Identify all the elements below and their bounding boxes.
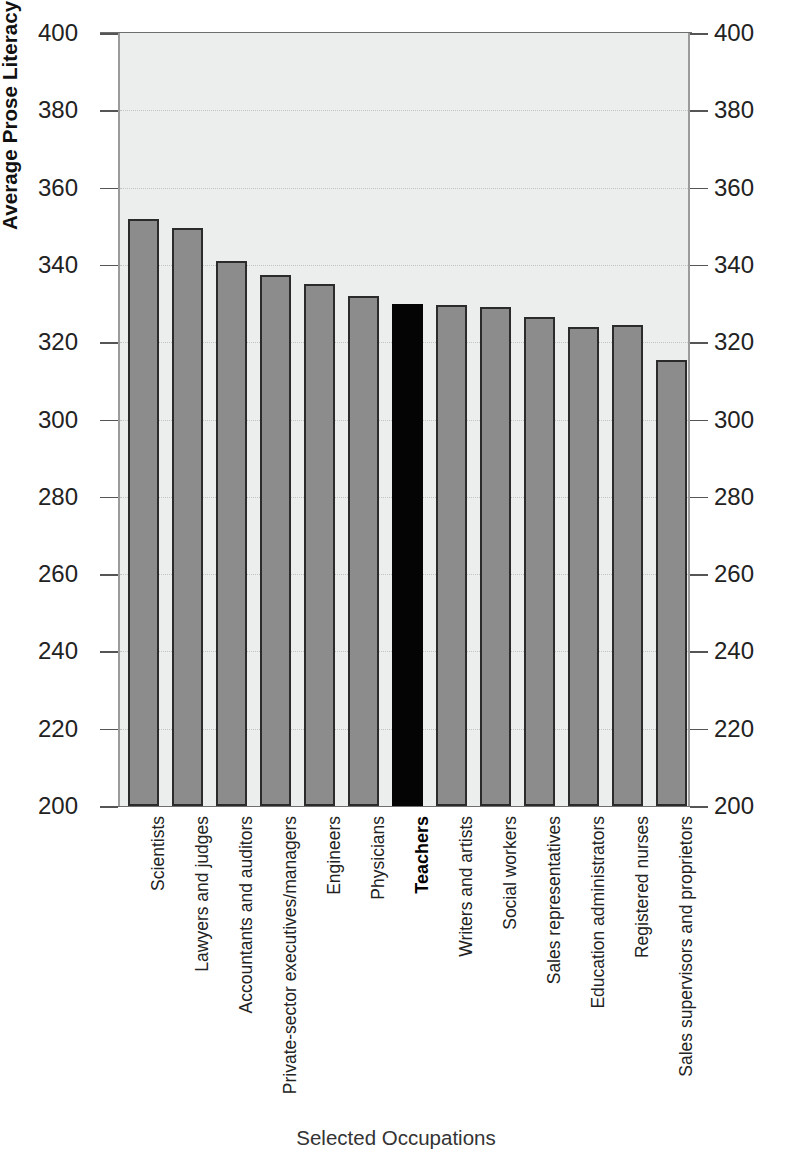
x-tick-label-1: Lawyers and judges — [192, 816, 213, 972]
x-tick-label-2: Accountants and auditors — [236, 816, 257, 1014]
y-tick-mark-left-400 — [100, 33, 118, 35]
gridline-360 — [120, 188, 688, 189]
bar-10 — [568, 327, 599, 806]
x-tick-label-9: Sales representatives — [544, 816, 565, 984]
gridline-380 — [120, 110, 688, 111]
bar-chart: Average Prose Literacy Scores 4003803603… — [0, 0, 792, 1175]
bar-7 — [436, 305, 467, 806]
x-tick-label-7: Writers and artists — [456, 816, 477, 957]
y-tick-mark-left-300 — [100, 420, 118, 422]
y-tick-mark-right-240 — [690, 651, 708, 653]
y-tick-mark-left-240 — [100, 651, 118, 653]
y-tick-mark-right-400 — [690, 33, 708, 35]
bar-8 — [480, 307, 511, 806]
y-tick-label-right-320: 320 — [714, 330, 754, 354]
y-tick-mark-left-380 — [100, 110, 118, 112]
y-tick-label-left-220: 220 — [38, 717, 78, 741]
plot-area — [118, 33, 690, 806]
y-tick-label-left-380: 380 — [38, 98, 78, 122]
bar-9 — [524, 317, 555, 806]
y-tick-label-left-400: 400 — [38, 21, 78, 45]
y-tick-label-left-300: 300 — [38, 408, 78, 432]
y-tick-label-right-240: 240 — [714, 639, 754, 663]
x-tick-label-5: Physicians — [368, 816, 389, 900]
bar-3 — [260, 275, 291, 806]
bar-2 — [216, 261, 247, 806]
y-tick-mark-left-200 — [100, 806, 118, 808]
y-tick-mark-left-320 — [100, 342, 118, 344]
y-tick-mark-left-340 — [100, 265, 118, 267]
y-tick-label-right-260: 260 — [714, 562, 754, 586]
y-tick-label-left-200: 200 — [38, 794, 78, 818]
y-tick-mark-right-340 — [690, 265, 708, 267]
bar-1 — [172, 228, 203, 806]
y-tick-mark-right-320 — [690, 342, 708, 344]
y-tick-mark-left-260 — [100, 574, 118, 576]
y-tick-label-right-360: 360 — [714, 176, 754, 200]
y-tick-label-right-340: 340 — [714, 253, 754, 277]
y-tick-label-left-260: 260 — [38, 562, 78, 586]
bar-11 — [612, 325, 643, 806]
x-tick-label-6: Teachers — [412, 816, 433, 894]
bar-6 — [392, 304, 423, 806]
x-tick-label-12: Sales supervisors and proprietors — [676, 816, 697, 1077]
x-tick-label-11: Registered nurses — [632, 816, 653, 958]
x-axis-title: Selected Occupations — [0, 1126, 792, 1150]
y-tick-label-right-400: 400 — [714, 21, 754, 45]
y-tick-label-right-220: 220 — [714, 717, 754, 741]
y-tick-mark-right-280 — [690, 497, 708, 499]
y-tick-mark-left-280 — [100, 497, 118, 499]
y-tick-label-left-240: 240 — [38, 639, 78, 663]
y-tick-mark-right-380 — [690, 110, 708, 112]
x-tick-label-8: Social workers — [500, 816, 521, 930]
x-tick-label-10: Education administrators — [588, 816, 609, 1009]
y-tick-mark-right-260 — [690, 574, 708, 576]
bar-4 — [304, 284, 335, 806]
bar-5 — [348, 296, 379, 806]
y-tick-label-right-300: 300 — [714, 408, 754, 432]
y-tick-mark-right-200 — [690, 806, 708, 808]
y-tick-label-left-340: 340 — [38, 253, 78, 277]
bar-12 — [656, 360, 687, 806]
x-tick-label-4: Engineers — [324, 816, 345, 895]
gridline-340 — [120, 265, 688, 266]
y-tick-mark-right-360 — [690, 188, 708, 190]
y-tick-label-right-280: 280 — [714, 485, 754, 509]
bar-0 — [128, 219, 159, 806]
y-axis-title: Average Prose Literacy Scores — [0, 0, 22, 230]
x-tick-label-3: Private-sector executives/managers — [280, 816, 301, 1094]
y-tick-label-left-320: 320 — [38, 330, 78, 354]
y-tick-label-left-280: 280 — [38, 485, 78, 509]
x-tick-label-0: Scientists — [148, 816, 169, 891]
y-tick-label-left-360: 360 — [38, 176, 78, 200]
y-tick-mark-right-220 — [690, 729, 708, 731]
y-tick-label-right-380: 380 — [714, 98, 754, 122]
y-tick-mark-left-360 — [100, 188, 118, 190]
y-tick-mark-left-220 — [100, 729, 118, 731]
y-tick-mark-right-300 — [690, 420, 708, 422]
y-tick-label-right-200: 200 — [714, 794, 754, 818]
